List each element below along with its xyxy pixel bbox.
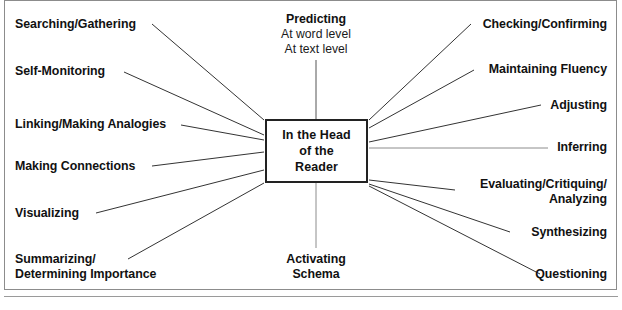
reading-strategies-diagram: In the Head of the Reader Predicting At … [0, 0, 622, 310]
node-self-monitoring-line-1: Self-Monitoring [15, 64, 105, 79]
node-self-monitoring: Self-Monitoring [15, 64, 105, 79]
node-questioning: Questioning [535, 267, 607, 282]
node-evaluating-critiquing-analyzing: Evaluating/Critiquing/ Analyzing [480, 177, 607, 207]
node-searching-gathering-line-1: Searching/Gathering [15, 17, 136, 32]
node-visualizing-line-1: Visualizing [15, 206, 79, 221]
node-making-connections-line-1: Making Connections [15, 159, 135, 174]
node-visualizing: Visualizing [15, 206, 79, 221]
node-predicting-sub-1: At word level [246, 27, 386, 42]
node-inferring-line-1: Inferring [557, 140, 607, 155]
node-checking-confirming-line-1: Checking/Confirming [483, 17, 607, 32]
node-inferring: Inferring [557, 140, 607, 155]
node-linking-making-analogies-line-1: Linking/Making Analogies [15, 117, 166, 132]
spoke-visualizing [96, 170, 264, 213]
node-summarizing-determining-importance: Summarizing/ Determining Importance [15, 252, 156, 282]
node-summarizing-line-2: Determining Importance [15, 267, 156, 282]
center-box: In the Head of the Reader [265, 119, 368, 183]
node-summarizing-line-1: Summarizing/ [15, 252, 156, 267]
center-line-1: In the Head [282, 127, 350, 143]
node-checking-confirming: Checking/Confirming [483, 17, 607, 32]
center-line-3: Reader [295, 159, 338, 175]
spoke-maintaining-fluency [369, 70, 474, 128]
node-predicting-heading: Predicting [246, 12, 386, 27]
node-evaluating-line-1: Evaluating/Critiquing/ [480, 177, 607, 192]
spoke-adjusting [369, 105, 541, 142]
node-searching-gathering: Searching/Gathering [15, 17, 136, 32]
node-linking-making-analogies: Linking/Making Analogies [15, 117, 166, 132]
center-line-2: of the [299, 143, 334, 159]
node-evaluating-line-2: Analyzing [480, 192, 607, 207]
node-predicting-sub-2: At text level [246, 42, 386, 57]
node-making-connections: Making Connections [15, 159, 135, 174]
node-questioning-line-1: Questioning [535, 267, 607, 282]
node-synthesizing-line-1: Synthesizing [531, 225, 607, 240]
node-predicting: Predicting At word level At text level [246, 12, 386, 57]
node-adjusting: Adjusting [550, 98, 607, 113]
spoke-summarizing [128, 183, 264, 259]
spoke-linking-analogies [181, 125, 264, 140]
node-activating-schema: Activating Schema [246, 252, 386, 282]
node-synthesizing: Synthesizing [531, 225, 607, 240]
node-adjusting-line-1: Adjusting [550, 98, 607, 113]
node-maintaining-fluency-line-1: Maintaining Fluency [489, 62, 607, 77]
node-activating-schema-line-2: Schema [246, 267, 386, 282]
node-activating-schema-line-1: Activating [246, 252, 386, 267]
node-maintaining-fluency: Maintaining Fluency [489, 62, 607, 77]
spoke-making-connections [152, 152, 264, 166]
